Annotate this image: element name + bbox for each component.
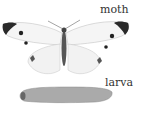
illustration-drawing [0,0,142,114]
larva-label: larva [105,77,133,88]
moth-icon [3,20,129,74]
moth-label: moth [100,4,129,15]
larva-icon [20,87,112,103]
moth-larva-illustration: moth larva [0,0,142,114]
